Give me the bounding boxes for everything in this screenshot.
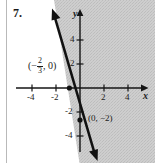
point-x-intercept	[67, 85, 72, 90]
y-tick-label-neg4: -4	[65, 131, 73, 140]
graph-svg	[0, 0, 155, 163]
y-tick-label-pos2: 2	[70, 59, 75, 68]
x-intercept-close-text: , 0)	[43, 61, 56, 71]
exercise-figure-panel: 7.	[0, 0, 155, 163]
y-intercept-annotation: (0, −2)	[88, 114, 113, 123]
x-tick-label-pos4: 4	[125, 93, 130, 102]
x-tick-label-neg2: -2	[51, 93, 59, 102]
x-tick-label-pos2: 2	[101, 93, 106, 102]
fraction-numerator: 2	[37, 57, 43, 65]
x-intercept-open-paren: (−	[28, 61, 37, 71]
x-axis-label: x	[143, 91, 148, 101]
fraction-denominator: 3	[37, 67, 43, 75]
x-intercept-annotation: (− 2 3 , 0)	[28, 57, 56, 75]
fraction-two-thirds: 2 3	[37, 57, 43, 75]
point-y-intercept	[77, 117, 82, 122]
y-tick-label-neg2: -2	[65, 107, 73, 116]
y-tick-label-pos4: 4	[70, 35, 75, 44]
y-axis-label: y	[73, 9, 77, 19]
x-tick-label-neg4: -4	[27, 93, 35, 102]
coordinate-plane-graph: y x -4 -2 2 4 4 2 -2 -4 (− 2 3 , 0) (0, …	[0, 0, 155, 163]
